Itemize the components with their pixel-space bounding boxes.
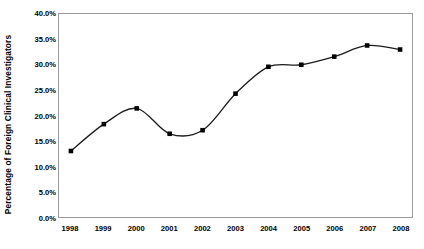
series-line-path (71, 45, 400, 151)
y-axis-tick-labels: 0.0%5.0%10.0%15.0%20.0%25.0%30.0%35.0%40… (16, 8, 58, 223)
y-axis-tick-label: 40.0% (16, 9, 56, 18)
line-chart-figure: Percentage of Foreign Clinical Investiga… (0, 0, 424, 249)
data-point-marker (266, 65, 271, 70)
y-axis-tick-label: 10.0% (16, 162, 56, 171)
data-point-marker (134, 106, 139, 111)
data-point-marker (69, 149, 74, 154)
data-point-marker (102, 122, 107, 127)
data-point-marker (200, 128, 205, 133)
data-point-marker (332, 54, 337, 59)
data-point-marker (167, 131, 172, 136)
y-axis-tick-label: 35.0% (16, 34, 56, 43)
x-axis-tick-labels: 1998199920002001200220032004200520062007… (58, 224, 413, 238)
y-axis-tick-label: 15.0% (16, 137, 56, 146)
series-markers (69, 43, 403, 153)
y-axis-tick-label: 20.0% (16, 111, 56, 120)
data-point-marker (233, 91, 238, 96)
data-point-marker (398, 47, 403, 52)
plot-svg (59, 14, 412, 217)
y-axis-tick-label: 25.0% (16, 85, 56, 94)
y-axis-title: Percentage of Foreign Clinical Investiga… (0, 0, 16, 249)
y-axis-tick-label: 0.0% (16, 214, 56, 223)
data-point-marker (299, 62, 304, 67)
data-point-marker (365, 43, 370, 48)
y-axis-tick-label: 5.0% (16, 188, 56, 197)
y-axis-tick-label: 30.0% (16, 60, 56, 69)
x-axis-tick-label: 2008 (381, 224, 421, 233)
plot-area (58, 13, 413, 218)
